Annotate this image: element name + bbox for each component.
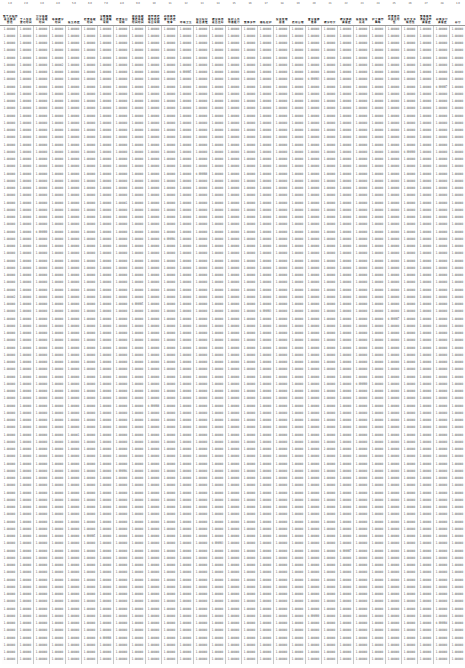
table-cell[interactable]: 1.000000 [354,128,370,135]
table-cell[interactable]: 1.000000 [194,33,210,40]
table-row[interactable]: 1.0000001.0000001.0000001.0000001.000000… [2,77,465,84]
table-row[interactable]: 1.0000001.0000001.0000001.0000001.000000… [2,142,465,149]
table-cell[interactable]: 1.000000 [258,548,274,555]
table-cell[interactable]: 1.000000 [146,331,162,338]
table-cell[interactable]: 1.000000 [162,526,178,533]
table-cell[interactable]: 1.000000 [338,599,354,606]
table-row[interactable]: 1.0000001.0000001.0000001.0000001.000000… [2,418,465,425]
table-cell[interactable]: 1.000000 [418,41,434,48]
table-cell[interactable]: 1.000000 [386,621,402,628]
table-row[interactable]: 1.0000001.0000001.0000001.0000001.000000… [2,113,465,120]
table-cell[interactable]: 1.000000 [2,526,18,533]
table-cell[interactable]: 1.000000 [2,287,18,294]
table-cell[interactable]: 1.000000 [226,222,242,229]
table-cell[interactable]: 1.000000 [402,26,418,33]
table-cell[interactable]: 1.000000 [66,439,82,446]
table-cell[interactable]: 1.000000 [18,606,34,613]
table-cell[interactable]: 1.000000 [178,200,194,207]
column-header-19[interactable]: 费用 合理 [290,21,306,25]
table-cell[interactable]: 1.000000 [274,657,290,664]
table-cell[interactable]: 1.000000 [162,113,178,120]
table-cell[interactable]: 1.000000 [210,222,226,229]
table-cell[interactable]: 1.000000 [226,164,242,171]
table-cell[interactable]: 1.000000 [370,381,386,388]
table-cell[interactable]: 1.000000 [450,526,465,533]
table-cell[interactable]: 1.000000 [50,200,66,207]
table-cell[interactable]: 1.000000 [98,70,114,77]
table-cell[interactable]: 1.000000 [370,534,386,541]
table-cell[interactable]: 1.000000 [306,439,322,446]
table-cell[interactable]: 1.000000 [322,331,338,338]
table-cell[interactable]: 1.000000 [418,157,434,164]
table-cell[interactable]: 1.000000 [162,294,178,301]
table-cell[interactable]: 1.000000 [418,461,434,468]
table-cell[interactable]: 1.000000 [34,425,50,432]
table-cell[interactable]: 1.000000 [258,193,274,200]
table-cell[interactable]: 1.000000 [370,280,386,287]
table-cell[interactable]: 1.000000 [322,548,338,555]
table-cell[interactable]: 1.000000 [210,367,226,374]
table-cell[interactable]: 1.000000 [402,70,418,77]
table-cell[interactable]: 1.000000 [274,171,290,178]
table-cell[interactable]: 1.000000 [226,229,242,236]
table-cell[interactable]: 1.000000 [178,62,194,69]
table-cell[interactable]: 1.000000 [258,621,274,628]
table-cell[interactable]: 1.000000 [50,454,66,461]
table-cell[interactable]: 1.000000 [114,381,130,388]
table-cell[interactable]: 1.000000 [2,461,18,468]
table-cell[interactable]: 1.000000 [274,113,290,120]
table-cell[interactable]: 1.000000 [178,381,194,388]
table-cell[interactable]: 1.000000 [242,381,258,388]
table-cell[interactable]: 1.000000 [338,490,354,497]
table-cell[interactable]: 1.000000 [82,142,98,149]
table-cell[interactable]: 1.000000 [146,207,162,214]
table-row[interactable]: 1.0000001.0000001.0000001.0000001.000000… [2,490,465,497]
table-cell[interactable]: 1.000000 [418,628,434,635]
table-cell[interactable]: 1.000000 [386,215,402,222]
table-cell[interactable]: 1.000000 [50,236,66,243]
table-cell[interactable]: 1.000000 [226,142,242,149]
table-cell[interactable]: 1.000000 [114,26,130,33]
table-cell[interactable]: 1.000000 [178,635,194,642]
table-cell[interactable]: 1.000000 [418,490,434,497]
table-cell[interactable]: 1.000000 [386,178,402,185]
table-cell[interactable]: 1.000000 [178,418,194,425]
table-cell[interactable]: 1.000000 [242,149,258,156]
table-cell[interactable]: 1.000000 [130,454,146,461]
table-cell[interactable]: 1.000000 [82,403,98,410]
table-cell[interactable]: 1.000000 [242,476,258,483]
table-cell[interactable]: 1.000000 [306,244,322,251]
table-cell[interactable]: 1.000000 [450,534,465,541]
table-cell[interactable]: 1.000000 [226,592,242,599]
table-cell[interactable]: 1.000000 [370,476,386,483]
table-cell[interactable]: 1.000000 [82,244,98,251]
table-cell[interactable]: 1.000000 [210,178,226,185]
table-cell[interactable]: 1.000000 [226,389,242,396]
table-cell[interactable]: 1.000000 [338,403,354,410]
table-cell[interactable]: 1.000000 [162,302,178,309]
table-cell[interactable]: 1.000000 [306,599,322,606]
table-cell[interactable]: 1.000000 [50,91,66,98]
table-cell[interactable]: 1.000000 [82,33,98,40]
table-cell[interactable]: 1.000000 [258,512,274,519]
table-cell[interactable]: 1.000000 [242,403,258,410]
table-cell[interactable]: 1.000000 [66,41,82,48]
table-cell[interactable]: 1.000000 [258,418,274,425]
table-cell[interactable]: 1.000000 [450,251,465,258]
table-cell[interactable]: 1.000000 [386,309,402,316]
table-cell[interactable]: 1.000000 [178,273,194,280]
table-cell[interactable]: 1.000000 [114,570,130,577]
table-cell[interactable]: 1.000000 [418,519,434,526]
table-cell[interactable]: 1.000000 [146,200,162,207]
table-cell[interactable]: 1.000000 [130,178,146,185]
table-row[interactable]: 1.0000001.0000001.0000001.0000001.000000… [2,628,465,635]
table-cell[interactable]: 1.000000 [418,454,434,461]
table-cell[interactable]: 1.000000 [114,483,130,490]
table-cell[interactable]: 1.000000 [178,526,194,533]
table-cell[interactable]: 1.000000 [194,77,210,84]
table-cell[interactable]: 1.000000 [178,294,194,301]
table-cell[interactable]: 1.000000 [386,613,402,620]
table-row[interactable]: 1.0000001.0000001.0000001.0000001.000000… [2,178,465,185]
table-cell[interactable]: 1.000000 [2,128,18,135]
table-cell[interactable]: 1.000000 [354,505,370,512]
